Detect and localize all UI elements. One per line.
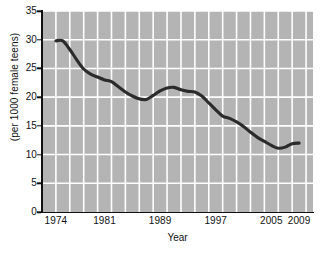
x-tick-label: 1997 <box>204 215 227 226</box>
x-tick-label: 2005 <box>260 215 283 226</box>
y-axis-title-container: (per 1000 female teens) <box>0 38 20 178</box>
x-tick-label: 1981 <box>93 215 116 226</box>
x-tick-label: 2009 <box>288 215 311 226</box>
x-axis-ticks: 197419811989199720052009 <box>0 0 329 264</box>
chart-container: 05101520253035 197419811989199720052009 … <box>0 0 329 264</box>
y-axis-title: (per 1000 female teens) <box>9 33 20 141</box>
x-axis-title: Year <box>42 232 313 243</box>
x-tick-label: 1989 <box>149 215 172 226</box>
x-tick-label: 1974 <box>45 215 68 226</box>
